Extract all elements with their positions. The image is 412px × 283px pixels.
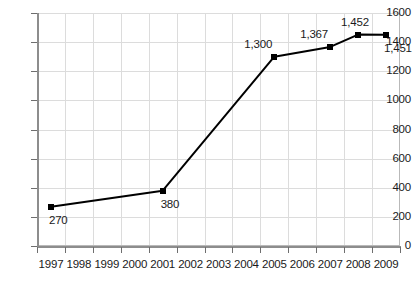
x-axis-tick [232, 247, 233, 253]
x-axis-tick [93, 247, 94, 253]
x-axis-tick [344, 247, 345, 253]
gridline-vertical [149, 14, 150, 245]
data-point-marker [355, 32, 361, 38]
x-axis-tick [260, 247, 261, 253]
y-axis-tick-label: 600 [381, 153, 411, 165]
y-axis-tick-label: 200 [381, 211, 411, 223]
y-axis-tick-label: 1200 [381, 65, 411, 77]
gridline-vertical [232, 14, 233, 245]
x-axis-tick [372, 247, 373, 253]
y-axis-tick [31, 71, 37, 72]
gridline-vertical [372, 14, 373, 245]
y-axis-tick-label: 1000 [381, 94, 411, 106]
x-axis-tick-label: 2006 [290, 258, 315, 270]
data-point-label: 1,452 [341, 16, 369, 28]
y-axis-tick-label: 400 [381, 182, 411, 194]
gridline-vertical [65, 14, 66, 245]
x-axis-tick-label: 2004 [234, 258, 259, 270]
gridline-vertical [93, 14, 94, 245]
y-axis-tick-label: 1600 [381, 7, 411, 19]
x-axis-tick-label: 1997 [39, 258, 64, 270]
x-axis-tick [65, 247, 66, 253]
gridline-vertical [177, 14, 178, 245]
data-point-marker [383, 32, 389, 38]
y-axis-tick [31, 100, 37, 101]
x-axis-tick-label: 2005 [262, 258, 287, 270]
x-axis-tick [288, 247, 289, 253]
y-axis-tick [31, 13, 37, 14]
x-axis-tick-label: 1999 [94, 258, 119, 270]
x-axis-tick [316, 247, 317, 253]
data-point-label: 270 [49, 214, 68, 226]
data-point-marker [48, 204, 54, 210]
x-axis-tick [177, 247, 178, 253]
x-axis-tick-label: 2007 [318, 258, 343, 270]
data-point-marker [271, 54, 277, 60]
y-axis-line [37, 13, 39, 247]
gridline-vertical [288, 14, 289, 245]
data-point-label: 1,451 [384, 42, 412, 54]
y-axis-tick [31, 159, 37, 160]
x-axis-tick [205, 247, 206, 253]
data-point-marker [160, 188, 166, 194]
plot-area [37, 13, 400, 246]
x-axis-tick [149, 247, 150, 253]
x-axis-tick-label: 2009 [374, 258, 399, 270]
gridline-vertical [205, 14, 206, 245]
x-axis-tick-label: 2003 [206, 258, 231, 270]
x-axis-tick-label: 2002 [178, 258, 203, 270]
data-point-marker [327, 44, 333, 50]
x-axis-tick [400, 247, 401, 253]
y-axis-tick [31, 217, 37, 218]
x-axis-tick-label: 2000 [122, 258, 147, 270]
x-axis-line [37, 246, 401, 248]
x-axis-tick-label: 1998 [66, 258, 91, 270]
data-point-label: 380 [161, 198, 180, 210]
data-point-label: 1,367 [300, 28, 328, 40]
x-axis-tick [121, 247, 122, 253]
gridline-vertical [316, 14, 317, 245]
x-axis-tick-label: 2001 [150, 258, 175, 270]
x-axis-tick [37, 247, 38, 253]
y-axis-tick [31, 42, 37, 43]
gridline-vertical [121, 14, 122, 245]
y-axis-tick-label: 0 [381, 240, 411, 252]
y-axis-tick [31, 188, 37, 189]
data-point-label: 1,300 [244, 38, 272, 50]
y-axis-tick-label: 800 [381, 124, 411, 136]
gridline-vertical [344, 14, 345, 245]
y-axis-tick [31, 130, 37, 131]
x-axis-tick-label: 2008 [346, 258, 371, 270]
